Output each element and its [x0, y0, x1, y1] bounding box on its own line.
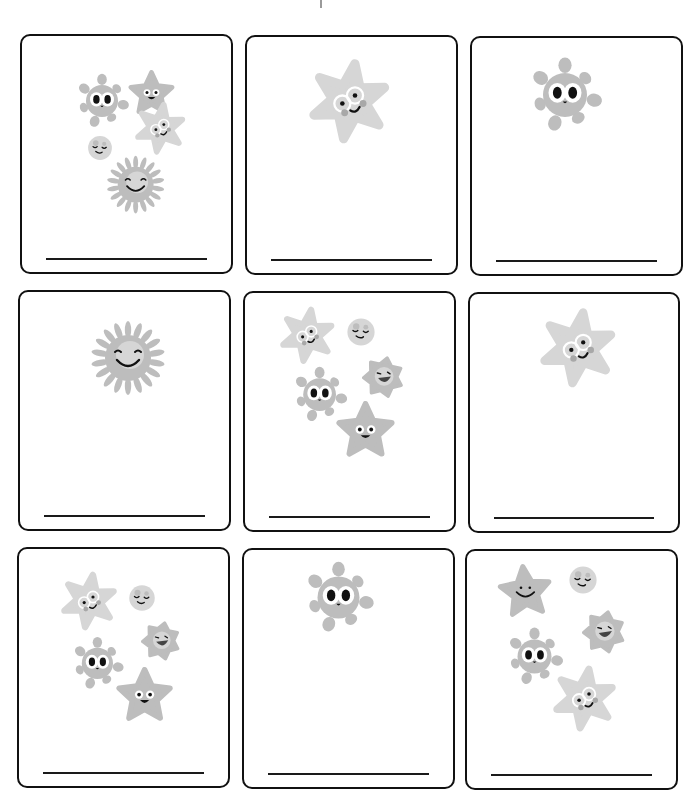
answer-line[interactable]	[271, 259, 432, 262]
sleepy-ball-icon	[345, 316, 377, 348]
count-card-8	[242, 548, 455, 789]
page-mark	[320, 0, 322, 8]
starfish-glasses-icon	[309, 61, 390, 142]
starfish-glasses-icon	[135, 103, 185, 153]
starfish-glasses-icon	[280, 308, 335, 363]
count-card-3	[470, 36, 683, 276]
count-card-7	[17, 547, 230, 788]
star-germ-icon	[337, 401, 394, 458]
starfish-glasses-icon	[61, 573, 117, 629]
sleepy-ball-icon	[567, 564, 599, 596]
count-card-9	[465, 549, 678, 790]
germ-blob-icon	[532, 62, 598, 128]
germ-blob-icon	[74, 640, 121, 687]
answer-line[interactable]	[44, 515, 205, 518]
answer-line[interactable]	[494, 517, 654, 520]
germ-blob-icon	[78, 77, 126, 125]
laughing-star-icon	[582, 610, 626, 654]
sun-germ-icon	[90, 320, 166, 396]
sleepy-ball-icon	[127, 583, 157, 613]
starfish-icon	[499, 564, 552, 617]
answer-line[interactable]	[496, 260, 657, 263]
starfish-glasses-icon	[553, 667, 616, 730]
germ-blob-icon	[307, 566, 370, 629]
count-card-4	[18, 290, 231, 531]
laughing-star-icon	[362, 356, 405, 399]
answer-line[interactable]	[46, 258, 207, 261]
answer-line[interactable]	[269, 516, 430, 519]
starfish-glasses-icon	[540, 310, 616, 386]
laughing-star-icon	[141, 621, 181, 661]
count-card-6	[468, 292, 680, 533]
count-card-2	[245, 35, 458, 275]
count-card-1	[20, 34, 233, 274]
answer-line[interactable]	[491, 774, 652, 777]
answer-line[interactable]	[268, 773, 429, 776]
answer-line[interactable]	[43, 772, 204, 775]
count-card-5	[243, 291, 456, 532]
sun-germ-icon	[106, 155, 165, 214]
star-germ-icon	[117, 667, 172, 722]
